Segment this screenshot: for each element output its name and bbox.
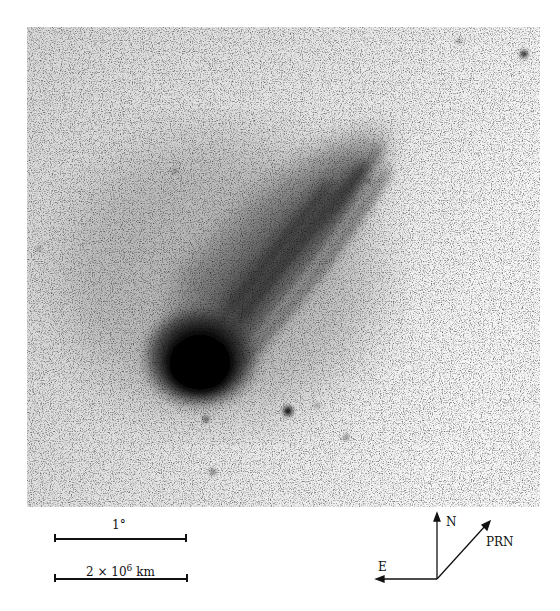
scale-bar-distance-tick-right <box>186 574 188 582</box>
compass-prn-label: PRN <box>486 535 514 549</box>
scale-bar-distance-tick-left <box>54 574 56 582</box>
compass-north-label: N <box>446 515 457 529</box>
film-grain <box>27 27 540 507</box>
scale-label-angle: 1° <box>112 518 126 532</box>
comet-photograph <box>27 27 540 507</box>
scale-bar-angle <box>55 538 186 540</box>
scale-bar-angle-tick-left <box>54 534 56 542</box>
scale-bar-distance <box>55 578 187 580</box>
scale-bar-angle-tick-right <box>185 534 187 542</box>
orientation-compass <box>360 508 520 598</box>
scale-label-distance: 2 × 106 km <box>86 563 155 579</box>
compass-east-label: E <box>378 560 387 574</box>
